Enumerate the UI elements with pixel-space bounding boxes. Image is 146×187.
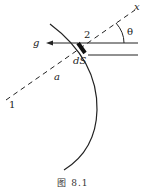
gravity-label: g (33, 38, 39, 48)
diagram-canvas (0, 0, 146, 187)
surface-element-dS (78, 43, 85, 53)
x-axis-label: x (134, 2, 140, 12)
interface-curve (50, 24, 97, 170)
figure-caption: 图 8.1 (0, 176, 146, 187)
surface-element-label: dS (73, 56, 86, 66)
angle-arc (116, 23, 124, 43)
angle-label: θ (127, 27, 133, 37)
direction-a-label: a (54, 72, 60, 82)
region-2-label: 2 (84, 30, 90, 40)
gravity-arrow-head-icon (46, 41, 53, 46)
region-1-label: 1 (9, 100, 15, 110)
